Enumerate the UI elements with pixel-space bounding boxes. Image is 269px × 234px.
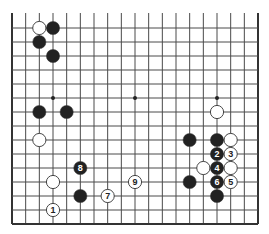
- black-stone: 8: [74, 161, 87, 174]
- black-stone: 6: [210, 175, 223, 188]
- black-stone-disc: [46, 49, 59, 62]
- move-number: 7: [105, 191, 110, 201]
- white-stone: [210, 105, 223, 118]
- black-stone-disc: [210, 133, 223, 146]
- white-stone-disc: [197, 161, 210, 174]
- black-stone: [210, 189, 223, 202]
- black-stone: [210, 133, 223, 146]
- black-stone: [46, 21, 59, 34]
- white-stone-disc: [224, 133, 237, 146]
- move-number: 3: [228, 149, 233, 159]
- black-stone-disc: [33, 35, 46, 48]
- move-number: 9: [132, 177, 137, 187]
- black-stone: [33, 105, 46, 118]
- white-stone: [33, 133, 46, 146]
- move-number: 1: [50, 205, 55, 215]
- star-point: [51, 96, 55, 100]
- white-stone-disc: [46, 175, 59, 188]
- white-stone-disc: [33, 21, 46, 34]
- white-stone: 3: [224, 147, 237, 160]
- white-stone-disc: [33, 133, 46, 146]
- white-stone: [46, 175, 59, 188]
- black-stone: [183, 175, 196, 188]
- white-stone: [224, 133, 237, 146]
- white-stone: 7: [101, 189, 114, 202]
- black-stone: [183, 133, 196, 146]
- star-point: [133, 96, 137, 100]
- black-stone: [33, 35, 46, 48]
- black-stone: [74, 189, 87, 202]
- go-board: 187923465: [0, 0, 269, 234]
- white-stone: [224, 161, 237, 174]
- white-stone-disc: [210, 105, 223, 118]
- move-number: 4: [214, 163, 219, 173]
- white-stone: 9: [128, 175, 141, 188]
- move-number: 5: [228, 177, 233, 187]
- move-number: 2: [214, 149, 219, 159]
- black-stone-disc: [183, 133, 196, 146]
- white-stone: 5: [224, 175, 237, 188]
- black-stone-disc: [74, 189, 87, 202]
- move-number: 6: [214, 177, 219, 187]
- white-stone: [33, 21, 46, 34]
- black-stone-disc: [183, 175, 196, 188]
- move-number: 8: [78, 163, 83, 173]
- star-point: [215, 96, 219, 100]
- black-stone-disc: [210, 189, 223, 202]
- white-stone: 1: [46, 203, 59, 216]
- black-stone-disc: [46, 21, 59, 34]
- black-stone: [46, 49, 59, 62]
- black-stone-disc: [33, 105, 46, 118]
- black-stone: 4: [210, 161, 223, 174]
- white-stone: [197, 161, 210, 174]
- black-stone: [60, 105, 73, 118]
- white-stone-disc: [224, 161, 237, 174]
- black-stone: 2: [210, 147, 223, 160]
- black-stone-disc: [60, 105, 73, 118]
